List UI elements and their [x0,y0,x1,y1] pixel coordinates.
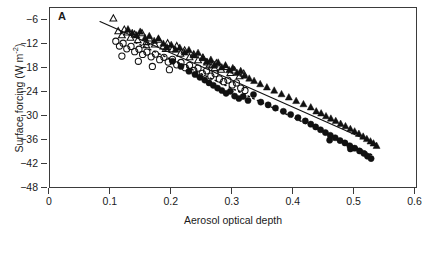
data-point [293,97,300,103]
y-axis-tick [41,67,47,68]
data-point [149,63,155,69]
data-point [368,155,374,161]
data-point [271,87,278,93]
data-point [186,68,192,74]
y-axis-tick [41,19,47,20]
y-axis-tick-label: −24 [0,86,38,97]
data-point [347,146,353,152]
data-point [295,115,301,121]
data-point [222,62,229,68]
data-point [245,97,251,103]
data-point [146,32,153,38]
y-axis-tick [41,91,47,92]
data-point [278,90,285,96]
y-axis-tick-label: −48 [0,182,38,193]
figure-panel-a: Surface forcing (W m-2) −6−12−18−24−30−3… [0,0,429,253]
panel-label: A [58,11,66,22]
y-axis-tick-group: −6−12−18−24−30−36−42−48 [0,0,38,253]
data-point [135,58,141,64]
data-point [280,108,286,114]
data-point [263,84,270,90]
x-axis-tick [48,188,49,194]
plot-frame [49,7,417,188]
y-axis-tick [41,115,47,116]
y-axis-tick [41,187,47,188]
x-axis-tick-label: 0.4 [273,196,313,207]
data-point [302,118,308,124]
data-point [176,44,183,50]
x-axis-tick [109,188,110,194]
x-axis-tick-label: 0.2 [151,196,191,207]
x-axis-tick-label: 0 [29,196,69,207]
y-axis-tick-label: −30 [0,110,38,121]
data-point [265,102,271,108]
x-axis-tick [414,188,415,194]
data-point [195,49,202,55]
data-point [155,35,162,41]
data-point [327,137,333,143]
data-point [169,58,175,64]
y-axis-tick-label: −18 [0,62,38,73]
y-axis-tick [41,139,47,140]
y-axis-tick [41,163,47,164]
y-axis-tick [41,43,47,44]
x-axis-tick-label: 0.5 [334,196,374,207]
data-point [258,99,264,105]
data-point [178,63,184,69]
x-axis-tick [353,188,354,194]
data-points [110,15,380,162]
x-axis-title: Aerosol optical depth [49,215,417,226]
data-point [272,105,278,111]
data-point [119,53,125,59]
y-axis-tick-label: −12 [0,38,38,49]
data-point [250,91,256,97]
plot-canvas [50,8,418,189]
data-point [313,108,320,114]
data-point [227,88,233,94]
y-axis-tick-label: −42 [0,158,38,169]
series-filled-circles [169,58,374,162]
x-axis-tick [170,188,171,194]
x-axis-tick-label: 0.3 [212,196,252,207]
series-filled-triangles [124,26,380,149]
y-axis-tick-label: −36 [0,134,38,145]
x-axis-tick [292,188,293,194]
data-point [207,56,214,62]
x-axis-tick-label: 0.1 [90,196,130,207]
x-axis-tick [231,188,232,194]
data-point [288,111,294,117]
data-point [110,15,117,21]
x-axis-tick-label: 0.6 [395,196,429,207]
y-axis-tick-label: −6 [0,14,38,25]
data-point [166,67,172,73]
regression-line-filled-triangles [100,22,377,145]
data-point [307,104,314,110]
data-point [300,100,307,106]
data-point [285,94,292,100]
